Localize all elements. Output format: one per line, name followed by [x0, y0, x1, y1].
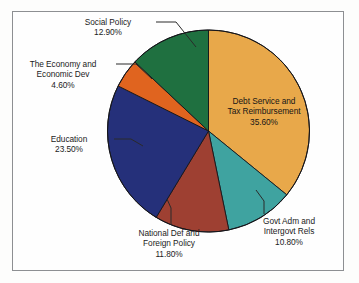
- pie-slices-group: [108, 30, 310, 232]
- slice-label-debt-service: Debt Service and Tax Reimbursement 35.60…: [212, 96, 316, 127]
- slice-label-education: Education 23.50%: [26, 134, 112, 155]
- slice-label-text: Intergovt Rels: [239, 226, 339, 236]
- slice-label-text: Tax Reimbursement: [212, 106, 316, 116]
- slice-label-text: National Def and: [114, 228, 224, 238]
- slice-value-text: 23.50%: [26, 144, 112, 154]
- slice-value-text: 4.60%: [13, 80, 113, 90]
- slice-label-text: The Economy and: [13, 59, 113, 69]
- slice-label-economy: The Economy and Economic Dev 4.60%: [13, 59, 113, 90]
- slice-value-text: 35.60%: [212, 117, 316, 127]
- slice-value-text: 10.80%: [239, 237, 339, 247]
- slice-label-text: Govt Adm and: [239, 216, 339, 226]
- chart-plot-area: Social Policy 12.90% The Economy and Eco…: [0, 0, 359, 283]
- slice-label-text: Education: [26, 134, 112, 144]
- slice-label-text: Foreign Policy: [114, 238, 224, 248]
- slice-label-text: Social Policy: [62, 17, 154, 27]
- slice-value-text: 11.80%: [114, 249, 224, 259]
- slice-value-text: 12.90%: [62, 27, 154, 37]
- slice-label-national-defense: National Def and Foreign Policy 11.80%: [114, 228, 224, 259]
- slice-label-text: Economic Dev: [13, 69, 113, 79]
- slice-label-govt-adm: Govt Adm and Intergovt Rels 10.80%: [239, 216, 339, 247]
- slice-label-text: Debt Service and: [212, 96, 316, 106]
- pie-chart-figure: Social Policy 12.90% The Economy and Eco…: [0, 0, 359, 283]
- slice-label-social-policy: Social Policy 12.90%: [62, 17, 154, 38]
